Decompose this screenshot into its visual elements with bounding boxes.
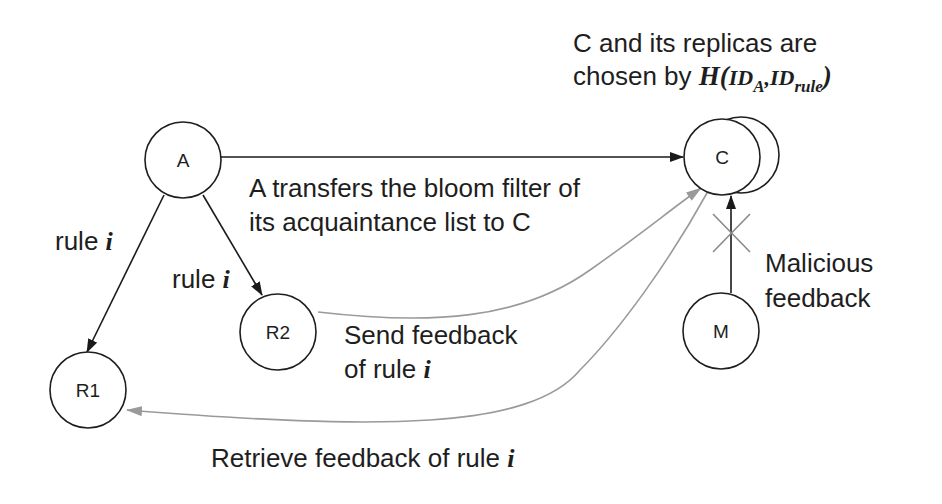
node-r2: R2 [240, 294, 316, 370]
id-rule-subscript: rule [795, 77, 823, 96]
hash-close: ) [823, 61, 832, 91]
edge-a-to-r1 [87, 195, 164, 352]
replica-note-prefix: chosen by [573, 61, 699, 91]
rule-r2-label: rule i [172, 264, 230, 295]
svg-text:R2: R2 [266, 322, 290, 343]
rule-r1-text: rule [55, 226, 106, 256]
send-feedback-var: i [424, 355, 431, 384]
id-a: ID [729, 65, 753, 90]
malicious-line2: feedback [765, 283, 871, 314]
retrieve-feedback-label: Retrieve feedback of rule i [211, 443, 515, 474]
id-rule: ID [770, 65, 794, 90]
hash-function: H( [699, 61, 729, 91]
send-feedback-line1: Send feedback [344, 320, 517, 351]
svg-text:R1: R1 [76, 380, 100, 401]
send-feedback-line2: of rule i [344, 354, 431, 385]
node-a: A [145, 122, 221, 198]
transfer-label-line1: A transfers the bloom filter of [249, 173, 580, 204]
rule-r2-var: i [223, 265, 230, 294]
transfer-label-line2: its acquaintance list to C [249, 207, 531, 238]
rule-r1-var: i [106, 227, 113, 256]
replica-note-line2: chosen by H(IDA,IDrule) [573, 61, 832, 95]
id-a-subscript: A [753, 77, 764, 96]
node-c: C [684, 119, 760, 195]
send-feedback-text: of rule [344, 354, 424, 384]
svg-text:A: A [177, 150, 190, 171]
rule-r2-text: rule [172, 264, 223, 294]
retrieve-feedback-text: Retrieve feedback of rule [211, 443, 507, 473]
svg-text:C: C [715, 147, 729, 168]
node-m: M [683, 293, 759, 369]
retrieve-feedback-var: i [507, 444, 514, 473]
rule-r1-label: rule i [55, 226, 113, 257]
svg-text:M: M [713, 321, 729, 342]
malicious-line1: Malicious [765, 248, 873, 279]
node-r1: R1 [50, 352, 126, 428]
replica-note-line1: C and its replicas are [573, 28, 817, 59]
